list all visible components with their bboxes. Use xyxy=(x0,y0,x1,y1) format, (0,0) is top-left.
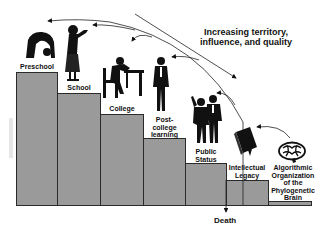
arrow-to-school xyxy=(93,25,135,30)
child-bending-icon xyxy=(20,28,60,62)
girl-icon xyxy=(64,24,90,82)
standing-man-icon xyxy=(151,57,171,113)
arrow-to-post-college xyxy=(172,56,199,60)
staircase-diagram: Preschool School College Post- college l… xyxy=(0,0,328,243)
arrow-to-preschool xyxy=(48,20,110,22)
book-icon xyxy=(232,126,260,156)
couple-icon xyxy=(190,93,224,145)
arrow-to-college xyxy=(132,35,152,41)
brain-icon xyxy=(278,141,306,163)
student-at-desk-icon xyxy=(100,56,144,100)
arrow-to-legacy xyxy=(257,126,290,138)
